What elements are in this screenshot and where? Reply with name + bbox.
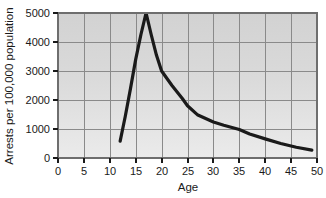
x-tick-label: 25: [182, 165, 194, 177]
x-tick-label: 45: [285, 165, 297, 177]
chart-figure: 0 1000 2000 3000 4000 5000 0 5 10 15 20 …: [0, 0, 326, 198]
x-tick-label: 50: [311, 165, 323, 177]
x-axis-ticks: [58, 158, 317, 163]
y-tick-label: 0: [44, 152, 50, 164]
y-tick-label: 1000: [26, 123, 50, 135]
x-tick-label: 0: [55, 165, 61, 177]
x-tick-label: 35: [233, 165, 245, 177]
y-axis-ticks: [53, 13, 58, 158]
y-axis-title: Arrests per 100,000 population: [3, 7, 15, 164]
y-tick-label: 5000: [26, 7, 50, 19]
y-tick-label: 4000: [26, 36, 50, 48]
arrests-by-age-line-chart: 0 1000 2000 3000 4000 5000 0 5 10 15 20 …: [0, 0, 326, 198]
x-tick-label: 10: [104, 165, 116, 177]
x-tick-label: 30: [207, 165, 219, 177]
y-tick-label: 2000: [26, 94, 50, 106]
x-tick-label: 20: [156, 165, 168, 177]
x-tick-label: 40: [259, 165, 271, 177]
y-axis-tick-labels: 0 1000 2000 3000 4000 5000: [26, 7, 50, 164]
x-axis-title: Age: [178, 181, 198, 193]
x-tick-label: 5: [81, 165, 87, 177]
y-tick-label: 3000: [26, 65, 50, 77]
x-tick-label: 15: [130, 165, 142, 177]
x-axis-tick-labels: 0 5 10 15 20 25 30 35 40 45 50: [55, 165, 323, 177]
